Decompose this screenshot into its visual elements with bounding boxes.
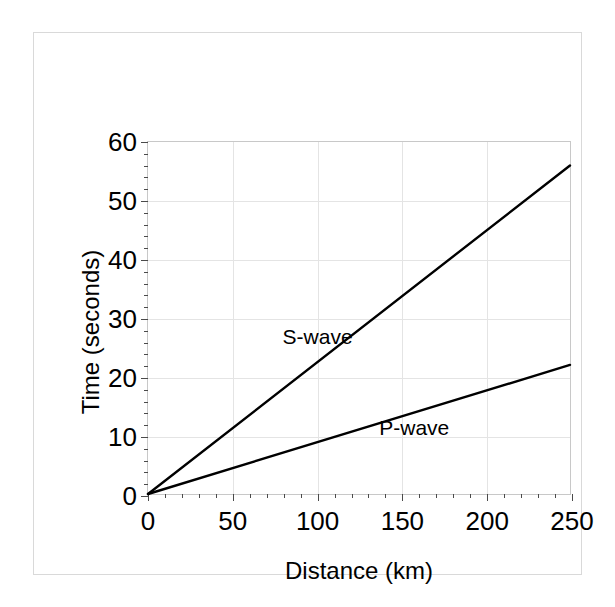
y-axis-major-tick <box>141 201 148 202</box>
y-axis-tick-label: 0 <box>123 481 137 512</box>
series-line-layer <box>148 142 570 494</box>
x-axis-minor-tick <box>216 494 217 498</box>
y-axis-major-tick <box>141 437 148 438</box>
series-label-p-wave: P-wave <box>379 416 449 440</box>
x-axis-major-tick <box>572 494 573 501</box>
y-axis-tick-label: 20 <box>108 363 137 394</box>
x-axis-tick-label: 250 <box>550 506 593 537</box>
x-axis-tick-label: 200 <box>465 506 508 537</box>
x-axis-title: Distance (km) <box>147 557 571 585</box>
x-axis-minor-tick <box>250 494 251 498</box>
x-axis-minor-tick <box>368 494 369 498</box>
x-axis-tick-label: 0 <box>141 506 155 537</box>
y-axis-major-tick <box>141 496 148 497</box>
y-axis-major-tick <box>141 260 148 261</box>
x-axis-minor-tick <box>199 494 200 498</box>
y-axis-major-tick <box>141 142 148 143</box>
y-axis-tick-label: 30 <box>108 304 137 335</box>
x-axis-minor-tick <box>453 494 454 498</box>
x-axis-minor-tick <box>165 494 166 498</box>
x-axis-minor-tick <box>385 494 386 498</box>
x-axis-minor-tick <box>504 494 505 498</box>
x-axis-major-tick <box>318 494 319 501</box>
x-axis-tick-label: 150 <box>381 506 424 537</box>
x-axis-major-tick <box>487 494 488 501</box>
y-axis-tick-label: 50 <box>108 186 137 217</box>
x-axis-minor-tick <box>555 494 556 498</box>
series-line-s-wave <box>148 165 570 494</box>
y-axis-title: Time (seconds) <box>77 182 105 482</box>
plot-area: 0102030405060 050100150200250 S-waveP-wa… <box>147 141 571 495</box>
figure-outer-frame: 0102030405060 050100150200250 S-waveP-wa… <box>33 32 582 575</box>
chart-figure: 0102030405060 050100150200250 S-waveP-wa… <box>0 0 615 607</box>
x-axis-tick-label: 100 <box>296 506 339 537</box>
x-axis-minor-tick <box>521 494 522 498</box>
y-axis-tick-label: 60 <box>108 127 137 158</box>
y-axis-major-tick <box>141 378 148 379</box>
y-axis-major-tick <box>141 319 148 320</box>
x-axis-minor-tick <box>267 494 268 498</box>
y-axis-tick-label: 10 <box>108 422 137 453</box>
x-axis-minor-tick <box>470 494 471 498</box>
x-axis-tick-label: 50 <box>218 506 247 537</box>
x-axis-minor-tick <box>301 494 302 498</box>
x-axis-minor-tick <box>538 494 539 498</box>
x-axis-minor-tick <box>419 494 420 498</box>
x-axis-minor-tick <box>284 494 285 498</box>
x-axis-major-tick <box>233 494 234 501</box>
x-axis-minor-tick <box>182 494 183 498</box>
y-axis-tick-label: 40 <box>108 245 137 276</box>
x-axis-minor-tick <box>335 494 336 498</box>
x-axis-major-tick <box>402 494 403 501</box>
series-line-p-wave <box>148 365 570 494</box>
series-label-s-wave: S-wave <box>283 325 353 349</box>
x-axis-minor-tick <box>352 494 353 498</box>
x-axis-minor-tick <box>436 494 437 498</box>
